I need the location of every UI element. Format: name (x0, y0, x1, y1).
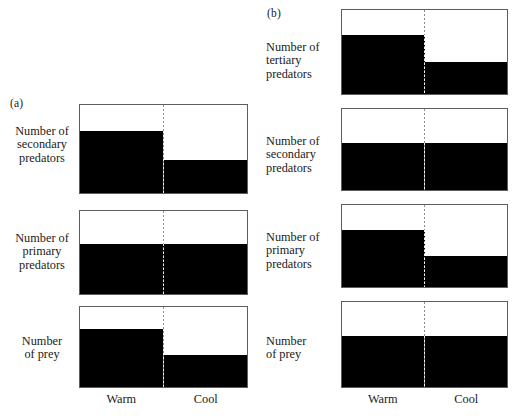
group-divider-line-over-fill (424, 230, 425, 287)
bar-warm (80, 131, 164, 193)
bar-warm (342, 336, 425, 387)
bar-warm (80, 329, 164, 387)
group-divider-line-over-fill (424, 35, 425, 94)
panel-b: (b) Number of tertiary predators Number … (258, 0, 519, 419)
panel-a-plot-secondary-predators (79, 104, 248, 194)
panel-b-plot-secondary-predators (341, 108, 508, 191)
axis-tick-warm: Warm (341, 392, 425, 406)
panel-b-row-prey-label: Number of prey (266, 335, 344, 362)
bar-cool (425, 62, 508, 94)
panel-b-axis-labels: Warm Cool (341, 392, 508, 406)
panel-a: (a) Number of secondary predators Number… (0, 0, 258, 419)
bar-cool (164, 160, 248, 193)
bar-cool (164, 355, 248, 387)
trophic-cascade-figure: (a) Number of secondary predators Number… (0, 0, 519, 419)
panel-a-plot-primary-predators (79, 210, 248, 295)
panel-a-plot-prey (79, 306, 248, 388)
bar-cool (425, 336, 508, 387)
panel-b-row-primary-predators-label: Number of primary predators (266, 231, 344, 271)
bar-warm (80, 244, 164, 294)
panel-b-plot-prey (341, 301, 508, 388)
group-divider-line-over-fill (424, 143, 425, 190)
group-divider-line-over-fill (163, 131, 164, 193)
bar-cool (425, 143, 508, 190)
panel-b-plot-primary-predators (341, 204, 508, 288)
group-divider-line-over-fill (163, 244, 164, 294)
panel-b-plot-tertiary-predators (341, 9, 508, 95)
panel-a-letter: (a) (10, 98, 23, 110)
bar-warm (342, 143, 425, 190)
bar-warm (342, 35, 425, 94)
group-divider-line-over-fill (424, 336, 425, 387)
panel-a-axis-labels: Warm Cool (79, 392, 248, 406)
group-divider-line-over-fill (163, 329, 164, 387)
axis-tick-cool: Cool (425, 392, 509, 406)
bar-cool (164, 244, 248, 294)
bar-warm (342, 230, 425, 287)
panel-b-row-tertiary-predators-label: Number of tertiary predators (266, 41, 344, 81)
axis-tick-warm: Warm (79, 392, 164, 406)
panel-a-row-primary-predators-label: Number of primary predators (6, 232, 78, 272)
panel-b-letter: (b) (267, 8, 281, 20)
panel-a-row-prey-label: Number of prey (6, 335, 78, 362)
panel-a-row-secondary-predators-label: Number of secondary predators (6, 125, 78, 165)
axis-tick-cool: Cool (164, 392, 249, 406)
bar-cool (425, 256, 508, 287)
panel-b-row-secondary-predators-label: Number of secondary predators (266, 135, 344, 175)
